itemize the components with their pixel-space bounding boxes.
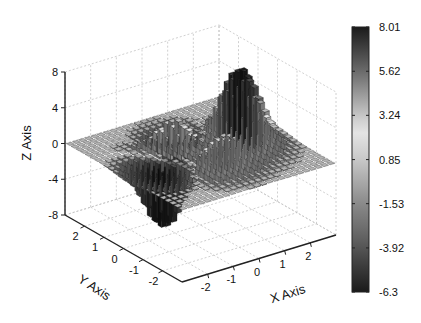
surface-column [311,158,319,162]
column-top [300,157,308,160]
x-tick-label: 2 [305,250,311,262]
column-top [199,110,207,114]
column-top [194,107,202,111]
surface-column [82,146,90,150]
column-top [104,147,112,151]
surface-column [188,109,196,113]
surface-column [190,105,198,108]
surface-column [105,142,113,145]
column-top [82,146,90,150]
z-tick-label: 0 [52,138,58,150]
x-tick [233,266,234,270]
surface-column [199,196,207,199]
surface-column [208,99,216,103]
column-top [100,140,108,143]
surface-column [186,200,194,204]
surface-column [87,148,95,151]
column-top [96,154,104,157]
surface-column [107,155,115,159]
surface-layer [66,68,334,228]
column-top [99,144,107,147]
x-tick [310,243,311,247]
x-tick [259,259,260,263]
surface-column [76,148,84,152]
column-top [314,165,322,169]
surface-column [88,144,96,148]
surface-column [91,151,99,155]
surface-column [116,127,124,131]
surface-column [79,138,87,142]
surface-column [66,142,74,145]
column-top [306,155,314,159]
surface-column [159,114,167,117]
surface-column [100,140,108,143]
column-top [290,173,298,176]
y-tick-label: 0 [111,253,117,265]
column-top [228,191,236,195]
surface-column [96,137,104,140]
surface-column [97,133,105,136]
surface-column [94,142,102,146]
surface-column [199,110,207,114]
wall-gridline [65,25,219,72]
column-top [76,148,84,152]
column-top [211,192,219,196]
column-top [185,205,193,209]
surface-column [200,192,208,196]
surface-column [283,174,291,178]
column-top [320,163,328,167]
surface-column [177,108,185,112]
column-top [102,135,110,139]
y-tick-label: 1 [92,241,98,253]
column-top [209,197,217,200]
surface-column [228,191,236,195]
surface-column [194,107,202,111]
column-top [114,132,122,136]
surface-column [185,205,193,209]
column-top [190,105,198,108]
z-tick-label: 4 [52,102,58,114]
surface-column [85,137,93,141]
surface-column [176,113,184,117]
surface-column [297,166,305,170]
y-tick [159,271,163,273]
x-tick-label: 0 [254,266,260,278]
column-top [208,99,216,103]
surface-column [327,161,335,164]
y-tick-label: 2 [72,230,78,242]
surface-column [305,160,313,164]
column-top [311,158,319,162]
surface-column [85,153,93,157]
surface-column [308,151,316,155]
surface-column [312,153,320,156]
column-top [303,164,311,167]
surface-column [205,194,213,198]
surface-column [290,173,298,176]
z-axis-title: Z Axis [19,125,34,161]
surface-column [291,168,299,172]
colorbar-label: -3.92 [379,242,404,254]
column-top [205,108,213,111]
y-tick [81,226,85,228]
surface-column [96,154,104,157]
z-tick-label: -8 [48,209,58,221]
column-top [113,153,121,157]
column-top [188,109,196,113]
surface-column [80,150,88,153]
column-top [159,114,167,117]
surface-column [306,155,314,159]
floor-gridline [124,202,278,249]
surface-column [216,195,224,199]
surface-column [94,158,102,162]
column-top [308,151,316,155]
surface-column [197,201,205,205]
column-top [97,149,105,153]
column-top [297,166,305,170]
colorbar-label: -6.3 [379,286,398,298]
surface-column [308,167,316,171]
column-top [199,196,207,199]
surface-column [193,112,201,116]
y-axis-title: Y Axis [75,271,114,303]
z-tick-label: 8 [52,66,58,78]
surface-column [101,156,109,159]
